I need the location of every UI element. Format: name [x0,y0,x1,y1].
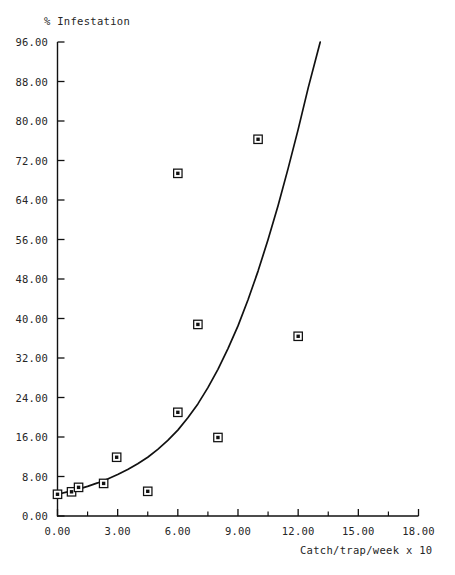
data-point-marker [294,332,302,340]
y-axis-ticks [58,42,65,516]
data-point-markers [53,135,302,498]
y-tick-label: 80.00 [4,115,48,127]
data-point-marker [74,483,82,491]
plot-canvas [0,0,455,575]
y-tick-label: 48.00 [4,273,48,285]
scatter-plot-figure: % Infestation Catch/trap/week x 10 0.008… [0,0,455,575]
y-tick-label: 0.00 [4,510,48,522]
y-tick-label: 32.00 [4,352,48,364]
data-point-marker [99,479,107,487]
x-tick-label: 15.00 [332,525,384,537]
x-tick-label: 12.00 [272,525,324,537]
x-tick-label: 9.00 [212,525,264,537]
x-tick-label: 18.00 [393,525,445,537]
y-tick-label: 40.00 [4,313,48,325]
x-tick-label: 6.00 [152,525,204,537]
x-tick-label: 3.00 [92,525,144,537]
y-tick-label: 88.00 [4,76,48,88]
axis-lines [57,42,419,517]
data-point-marker [174,169,182,177]
data-point-marker [144,487,152,495]
data-point-marker [214,433,222,441]
page-footer-text [8,566,438,573]
y-tick-label: 96.00 [4,36,48,48]
y-tick-label: 56.00 [4,234,48,246]
data-point-marker [194,320,202,328]
data-point-marker [53,490,61,498]
data-point-marker [174,408,182,416]
y-tick-label: 8.00 [4,471,48,483]
y-tick-label: 24.00 [4,392,48,404]
y-tick-label: 16.00 [4,431,48,443]
y-tick-label: 64.00 [4,194,48,206]
data-point-marker [254,135,262,143]
x-axis-major-ticks [58,509,419,516]
data-point-marker [112,453,120,461]
fitted-curve [58,42,321,494]
y-tick-label: 72.00 [4,155,48,167]
x-tick-label: 0.00 [32,525,84,537]
